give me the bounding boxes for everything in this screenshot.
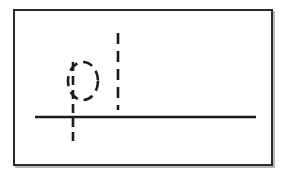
drawing-canvas: Dashed Ellipse And Axis Line Drawing Hor… (0, 0, 285, 175)
line-drawing-figure (0, 0, 285, 175)
outer-rectangle-border (14, 10, 272, 165)
